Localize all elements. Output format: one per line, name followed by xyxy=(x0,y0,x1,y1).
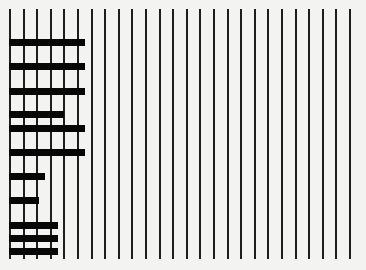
bar xyxy=(9,149,85,156)
bar xyxy=(9,197,39,204)
grid-line xyxy=(213,9,215,259)
bar-chart xyxy=(0,0,366,270)
grid-line xyxy=(104,9,106,259)
bar xyxy=(9,88,85,95)
bar xyxy=(9,125,85,132)
grid-line xyxy=(145,9,147,259)
grid-line xyxy=(77,9,79,259)
grid-line xyxy=(91,9,93,259)
bar xyxy=(9,222,58,229)
grid-line xyxy=(63,9,65,259)
bar xyxy=(9,235,58,242)
grid-line xyxy=(131,9,133,259)
bar xyxy=(9,173,45,180)
grid-line xyxy=(118,9,120,259)
grid-line xyxy=(254,9,256,259)
bar xyxy=(9,39,85,46)
grid-line xyxy=(267,9,269,259)
grid-line xyxy=(295,9,297,259)
grid-line xyxy=(227,9,229,259)
grid-line xyxy=(159,9,161,259)
grid-line xyxy=(349,9,351,259)
grid-line xyxy=(308,9,310,259)
bar xyxy=(9,63,85,70)
grid-line xyxy=(186,9,188,259)
grid-line xyxy=(199,9,201,259)
grid-line xyxy=(281,9,283,259)
grid-line xyxy=(335,9,337,259)
bar xyxy=(9,248,58,255)
grid-line xyxy=(322,9,324,259)
bar xyxy=(9,111,64,118)
grid-line xyxy=(172,9,174,259)
grid-line xyxy=(240,9,242,259)
